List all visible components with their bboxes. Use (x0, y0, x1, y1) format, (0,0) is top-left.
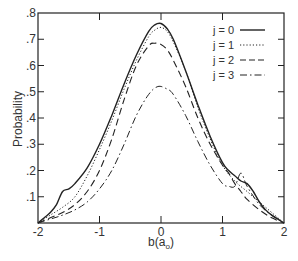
y-tick-label: .5 (26, 85, 36, 99)
x-tick-label: 2 (281, 225, 288, 239)
x-tick-label: -2 (33, 225, 44, 239)
legend-label-j0: j = 0 (212, 24, 234, 36)
probability-chart: -2-1012 .1.2.3.4.5.6.7.8 j = 0j = 1j = 2… (0, 0, 298, 261)
y-axis-title: Probability (11, 91, 25, 147)
y-tick-label: .3 (26, 137, 36, 151)
x-tick-label: -1 (94, 225, 105, 239)
series-line-j1 (38, 27, 284, 223)
y-tick-label: .4 (26, 111, 36, 125)
y-axis-ticks: .1.2.3.4.5.6.7.8 (26, 6, 284, 204)
series-line-j0 (38, 23, 284, 223)
y-tick-label: .7 (26, 32, 36, 46)
series-line-j2 (38, 43, 284, 223)
series-curves (38, 23, 284, 223)
y-tick-label: .1 (26, 190, 36, 204)
y-tick-label: .2 (26, 164, 36, 178)
series-line-j3 (38, 86, 284, 223)
x-axis-title: b(ao) (148, 235, 174, 251)
x-axis-ticks: -2-1012 (33, 13, 288, 239)
x-axis-title-close: ) (170, 235, 174, 249)
y-tick-label: .8 (26, 6, 36, 20)
legend: j = 0j = 1j = 2j = 3 (212, 24, 265, 81)
legend-label-j2: j = 2 (212, 54, 234, 66)
x-tick-label: 1 (219, 225, 226, 239)
legend-label-j1: j = 1 (212, 39, 234, 51)
x-axis-title-main: b(a (148, 235, 166, 249)
y-tick-label: .6 (26, 59, 36, 73)
legend-label-j3: j = 3 (212, 69, 234, 81)
